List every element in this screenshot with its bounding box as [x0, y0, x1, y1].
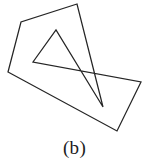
figure-panel: (b): [0, 0, 149, 163]
figure-caption: (b): [0, 136, 149, 160]
self-intersecting-polygon-path: [8, 4, 141, 131]
polygon-drawing-canvas: [0, 0, 149, 138]
